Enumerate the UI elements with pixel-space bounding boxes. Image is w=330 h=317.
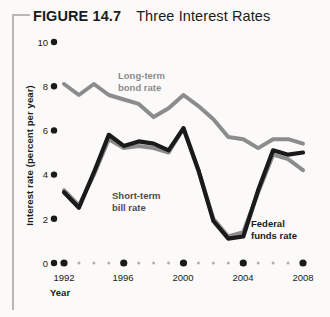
series-lines — [64, 84, 303, 239]
annotation-long-term-bond-rate: Long-term bond rate — [118, 70, 165, 93]
annotation-short-term-bill-rate: Short-term bill rate — [112, 190, 161, 213]
figure-container: FIGURE 14.7 Three Interest Rates Interes… — [0, 0, 330, 317]
chart-plot-area — [0, 0, 330, 317]
series-line-long-term-bond-rate — [64, 84, 303, 148]
annotation-federal-funds-rate: Federal funds rate — [251, 218, 297, 241]
